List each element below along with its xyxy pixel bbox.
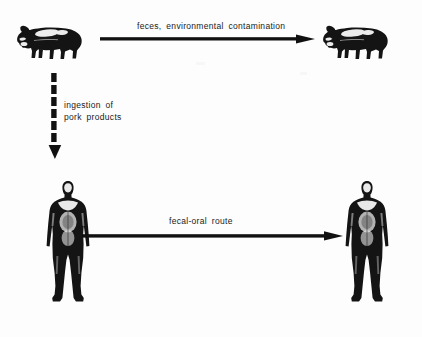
scan-artifact — [196, 62, 205, 65]
pig-source — [16, 20, 84, 62]
edge-pig-to-pig — [100, 31, 316, 47]
pig-icon — [16, 20, 84, 62]
pig-icon — [322, 20, 390, 62]
transmission-diagram: feces, environmental contamination inges… — [0, 0, 422, 337]
human-target — [345, 180, 389, 306]
edge-pig-to-human — [46, 71, 64, 161]
edge-label-human-to-human: fecal-oral route — [169, 216, 233, 227]
edge-label-pig-to-pig: feces, environmental contamination — [137, 21, 285, 32]
edge-label-pig-to-human: ingestion of pork products — [64, 100, 122, 123]
scan-artifact — [300, 72, 307, 75]
pig-target — [322, 20, 390, 62]
arrow-down-dashed-icon — [46, 71, 64, 161]
edge-human-to-human — [82, 228, 344, 244]
arrow-right-icon — [100, 31, 316, 47]
arrow-right-icon — [82, 228, 344, 244]
edge-label-line-1: ingestion of — [64, 100, 122, 112]
human-anatomy-icon — [345, 180, 389, 306]
edge-label-line-2: pork products — [64, 112, 122, 124]
